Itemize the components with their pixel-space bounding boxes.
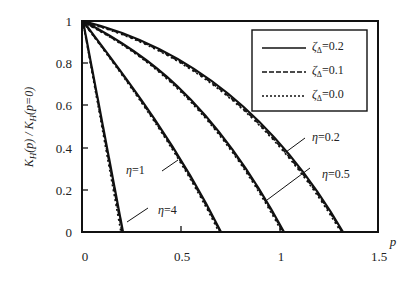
y-tick-label: 0.6 — [56, 98, 73, 113]
y-tick-labels: 1 0.8 0.6 0.4 0.2 0 — [56, 14, 73, 240]
x-tick-label: 0 — [82, 249, 89, 264]
annotation-eta-4: η=4 — [158, 203, 177, 217]
y-tick-label: 1 — [66, 14, 73, 29]
annotation-eta-0.5: η=0.5 — [322, 167, 350, 181]
legend-box — [252, 30, 367, 111]
series-eta-4 — [83, 21, 123, 232]
x-axis-label: p — [389, 234, 397, 249]
x-tick-label: 1 — [278, 249, 285, 264]
annotation-eta-1: η=1 — [126, 163, 145, 177]
annotation-eta-0.2: η=0.2 — [312, 130, 340, 144]
legend-label-0.1: ζΔ=0.1 — [312, 63, 344, 79]
x-tick-label: 0.5 — [174, 249, 190, 264]
y-tick-label: 0.2 — [56, 183, 72, 198]
y-tick-label: 0.4 — [56, 141, 73, 156]
chart: 1 0.8 0.6 0.4 0.2 0 0 0.5 1 1.5 p KH(p) … — [0, 0, 418, 282]
y-tick-label: 0.8 — [56, 56, 72, 71]
x-tick-labels: 0 0.5 1 1.5 — [82, 249, 387, 264]
x-tick-label: 1.5 — [371, 249, 387, 264]
legend-label-0.2: ζΔ=0.2 — [312, 39, 344, 55]
y-tick-label: 0 — [66, 225, 73, 240]
legend-label-0.0: ζΔ=0.0 — [312, 87, 344, 103]
y-axis-label: KH(p) / KH(p=0) — [22, 87, 38, 168]
legend: ζΔ=0.2 ζΔ=0.1 ζΔ=0.0 — [252, 30, 367, 111]
